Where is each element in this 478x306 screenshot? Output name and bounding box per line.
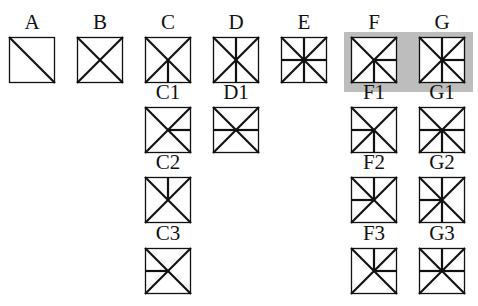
square-figure-g1 bbox=[419, 107, 465, 153]
figure-label: C3 bbox=[137, 223, 199, 244]
square-figure-c3 bbox=[145, 248, 191, 294]
square-figure-d bbox=[213, 37, 259, 83]
figure-label: A bbox=[1, 12, 63, 33]
figure-label: G2 bbox=[411, 152, 473, 173]
square-figure-e bbox=[281, 37, 327, 83]
square-figure-g2 bbox=[419, 177, 465, 223]
figure-label: F bbox=[343, 12, 405, 33]
square-figure-g3 bbox=[419, 248, 465, 294]
square-figure-g bbox=[419, 37, 465, 83]
figure-label: D bbox=[205, 12, 267, 33]
figure-label: C2 bbox=[137, 152, 199, 173]
square-figure-f1 bbox=[351, 107, 397, 153]
figure-label: C1 bbox=[137, 82, 199, 103]
square-figure-c bbox=[145, 37, 191, 83]
figure-label: E bbox=[273, 12, 335, 33]
figure-label: B bbox=[69, 12, 131, 33]
figure-label: F3 bbox=[343, 223, 405, 244]
figure-label: C bbox=[137, 12, 199, 33]
square-figure-f bbox=[351, 37, 397, 83]
figure-label: G3 bbox=[411, 223, 473, 244]
square-figure-f3 bbox=[351, 248, 397, 294]
square-figure-c1 bbox=[145, 107, 191, 153]
figure-label: G1 bbox=[411, 82, 473, 103]
square-figure-f2 bbox=[351, 177, 397, 223]
square-figure-c2 bbox=[145, 177, 191, 223]
figure-label: D1 bbox=[205, 82, 267, 103]
square-figure-a bbox=[9, 37, 55, 83]
figure-label: F2 bbox=[343, 152, 405, 173]
figure-label: F1 bbox=[343, 82, 405, 103]
square-figure-d1 bbox=[213, 107, 259, 153]
figure-label: G bbox=[411, 12, 473, 33]
square-figure-b bbox=[77, 37, 123, 83]
